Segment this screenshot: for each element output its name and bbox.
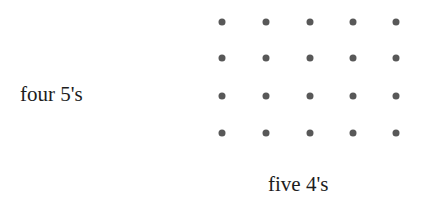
dot-icon	[350, 130, 357, 137]
dot-icon	[263, 130, 270, 137]
dot-icon	[307, 55, 314, 62]
dot-icon	[263, 55, 270, 62]
dot-icon	[219, 130, 226, 137]
dot-icon	[219, 55, 226, 62]
dot-icon	[263, 19, 270, 26]
dot-icon	[307, 19, 314, 26]
dot-icon	[393, 55, 400, 62]
row-count-label: four 5's	[20, 84, 83, 105]
array-multiplication-figure: four 5's five 4's	[0, 0, 426, 204]
column-count-label: five 4's	[268, 174, 328, 195]
dot-icon	[393, 130, 400, 137]
dot-icon	[350, 19, 357, 26]
dot-icon	[219, 93, 226, 100]
dot-icon	[263, 93, 270, 100]
dot-icon	[350, 93, 357, 100]
dot-icon	[393, 19, 400, 26]
dot-icon	[307, 93, 314, 100]
dot-icon	[307, 130, 314, 137]
dot-icon	[350, 55, 357, 62]
dot-icon	[393, 93, 400, 100]
dot-icon	[219, 19, 226, 26]
